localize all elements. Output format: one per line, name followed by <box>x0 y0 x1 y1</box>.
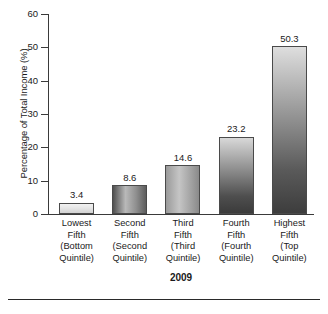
x-category-line: Quintile) <box>210 253 263 265</box>
x-axis-line <box>48 214 314 215</box>
bar <box>272 46 307 214</box>
y-axis-line <box>48 14 49 214</box>
bar <box>59 203 94 214</box>
y-tick-label: 40 <box>12 76 38 86</box>
x-category-line: (Second <box>103 241 156 253</box>
bar <box>165 165 200 214</box>
x-axis-title: 2009 <box>48 272 314 283</box>
y-tick-label: 50 <box>12 42 38 52</box>
x-category-line: (Third <box>156 241 209 253</box>
x-category-line: Fifth <box>263 230 316 242</box>
x-category-line: Fifth <box>103 230 156 242</box>
bar-value-label: 50.3 <box>263 34 316 44</box>
x-category-line: Quintile) <box>50 253 103 265</box>
y-tick-mark <box>41 114 48 115</box>
plot-area: 0 10 20 30 40 50 60 3.4 8.6 14.6 23.2 50… <box>48 14 314 214</box>
bar-value-label: 23.2 <box>210 124 263 134</box>
x-category-label: Lowest Fifth (Bottom Quintile) <box>50 218 103 264</box>
bar-slot: 8.6 <box>103 14 156 214</box>
x-category-label: Fourth Fifth (Fourth Quintile) <box>210 218 263 264</box>
x-category-line: Quintile) <box>263 253 316 265</box>
y-tick-mark <box>41 147 48 148</box>
y-tick-label: 0 <box>12 209 38 219</box>
bar <box>219 137 254 214</box>
y-tick-mark <box>41 214 48 215</box>
bar-slot: 3.4 <box>50 14 103 214</box>
y-tick-label: 10 <box>12 176 38 186</box>
income-quintile-bar-chart: Percentage of Total Income (%) 0 10 20 3… <box>0 0 328 314</box>
y-tick-mark <box>41 14 48 15</box>
x-category-line: Fifth <box>156 230 209 242</box>
bar-slot: 50.3 <box>263 14 316 214</box>
y-tick-label: 20 <box>12 142 38 152</box>
bar-value-label: 14.6 <box>156 153 209 163</box>
x-category-label: Highest Fifth (Top Quintile) <box>263 218 316 264</box>
x-category-line: Quintile) <box>103 253 156 265</box>
y-tick-label: 60 <box>12 9 38 19</box>
x-category-label: Third Fifth (Third Quintile) <box>156 218 209 264</box>
x-category-line: Fifth <box>210 230 263 242</box>
x-category-line: Lowest <box>50 218 103 230</box>
x-category-line: (Top <box>263 241 316 253</box>
bar <box>112 185 147 214</box>
footer-divider <box>8 299 320 300</box>
y-tick-label: 30 <box>12 109 38 119</box>
x-axis-category-labels: Lowest Fifth (Bottom Quintile) Second Fi… <box>48 218 314 270</box>
x-category-line: (Bottom <box>50 241 103 253</box>
bar-value-label: 8.6 <box>103 173 156 183</box>
y-tick-mark <box>41 47 48 48</box>
x-category-label: Second Fifth (Second Quintile) <box>103 218 156 264</box>
y-tick-mark <box>41 181 48 182</box>
x-category-line: Second <box>103 218 156 230</box>
bar-value-label: 3.4 <box>50 190 103 200</box>
x-category-line: Highest <box>263 218 316 230</box>
x-category-line: Quintile) <box>156 253 209 265</box>
bar-slot: 23.2 <box>210 14 263 214</box>
x-category-line: (Fourth <box>210 241 263 253</box>
x-category-line: Third <box>156 218 209 230</box>
x-category-line: Fifth <box>50 230 103 242</box>
y-tick-mark <box>41 81 48 82</box>
x-category-line: Fourth <box>210 218 263 230</box>
bar-slot: 14.6 <box>156 14 209 214</box>
